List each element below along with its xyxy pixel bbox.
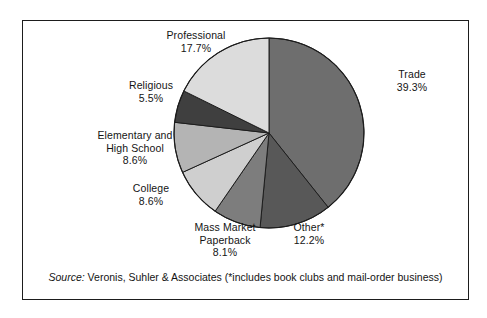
- chart-page: Professional 17.7% Religious 5.5% Elemen…: [0, 0, 487, 318]
- pie-label-religious-value: 5.5%: [103, 92, 199, 105]
- pie-label-elementary-high-school-value: 8.6%: [75, 154, 195, 167]
- pie-label-professional-name: Professional: [141, 29, 251, 42]
- source-note-text: Veronis, Suhler & Associates (*includes …: [85, 271, 443, 283]
- source-note: Source: Veronis, Suhler & Associates (*i…: [22, 271, 469, 283]
- pie-label-elementary-high-school-name-line1: Elementary and: [75, 129, 195, 142]
- pie-label-college: College 8.6%: [103, 182, 199, 207]
- pie-label-elementary-high-school: Elementary and High School 8.6%: [75, 129, 195, 167]
- pie-label-mass-market-paperback-value: 8.1%: [167, 246, 283, 259]
- pie-chart: Professional 17.7% Religious 5.5% Elemen…: [0, 0, 487, 318]
- pie-label-trade: Trade 39.3%: [372, 68, 452, 93]
- pie-label-trade-value: 39.3%: [372, 81, 452, 94]
- pie-label-college-value: 8.6%: [103, 195, 199, 208]
- pie-label-trade-name: Trade: [372, 68, 452, 81]
- pie-label-religious: Religious 5.5%: [103, 79, 199, 104]
- pie-label-religious-name: Religious: [103, 79, 199, 92]
- pie-label-mass-market-paperback: Mass Market Paperback 8.1%: [167, 221, 283, 259]
- pie-label-other-value: 12.2%: [268, 234, 350, 247]
- source-note-label: Source:: [49, 271, 85, 283]
- pie-label-other: Other* 12.2%: [268, 221, 350, 246]
- pie-label-other-name: Other*: [268, 221, 350, 234]
- pie-label-professional-value: 17.7%: [141, 42, 251, 55]
- pie-label-elementary-high-school-name-line2: High School: [75, 142, 195, 155]
- pie-label-mass-market-paperback-name-line1: Mass Market: [167, 221, 283, 234]
- pie-label-professional: Professional 17.7%: [141, 29, 251, 54]
- pie-label-college-name: College: [103, 182, 199, 195]
- pie-slices-group: [174, 38, 364, 228]
- pie-label-mass-market-paperback-name-line2: Paperback: [167, 234, 283, 247]
